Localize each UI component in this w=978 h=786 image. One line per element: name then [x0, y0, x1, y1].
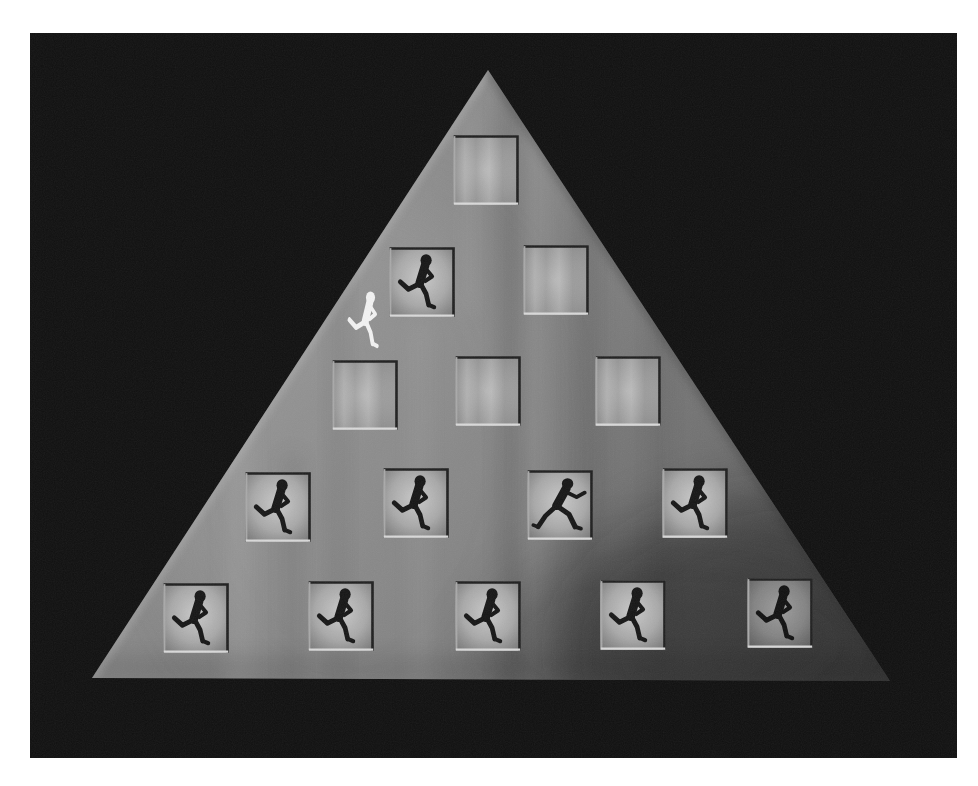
game-screen: [30, 33, 957, 758]
photo-page-background: [0, 0, 978, 786]
tile-r4c4[interactable]: [662, 468, 728, 538]
tile-r3c2[interactable]: [455, 356, 521, 426]
tile-r2c2[interactable]: [523, 245, 589, 315]
tile-r5c1[interactable]: [163, 583, 229, 653]
tile-r1c1[interactable]: [453, 135, 519, 205]
tile-r5c3[interactable]: [455, 581, 521, 651]
tile-r4c2[interactable]: [383, 468, 449, 538]
tile-texture: [332, 360, 398, 430]
tile-shadow-overlay: [747, 578, 813, 648]
tile-texture: [523, 245, 589, 315]
tile-r4c3[interactable]: [527, 470, 593, 540]
tile-r3c1[interactable]: [332, 360, 398, 430]
tile-texture: [455, 356, 521, 426]
tile-texture: [453, 135, 519, 205]
tile-r5c5[interactable]: [747, 578, 813, 648]
tile-r2c1[interactable]: [389, 247, 455, 317]
tile-r4c1[interactable]: [245, 472, 311, 542]
tile-texture: [595, 356, 661, 426]
tile-r3c3[interactable]: [595, 356, 661, 426]
tile-r5c4[interactable]: [600, 580, 666, 650]
tile-r5c2[interactable]: [308, 581, 374, 651]
pyramid: [92, 70, 957, 758]
